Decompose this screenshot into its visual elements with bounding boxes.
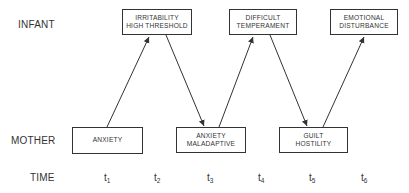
node-line2: HIGH THRESHOLD bbox=[126, 22, 188, 31]
node-line1: DIFFICULT bbox=[245, 14, 280, 23]
edge-anxiety-maladaptive-to-difficult bbox=[219, 37, 253, 127]
node-line1: IRRITABILITY bbox=[135, 14, 179, 23]
edge-guilt-to-emotional bbox=[323, 37, 364, 127]
edge-anxiety-to-irritability bbox=[107, 37, 149, 127]
node-anxiety: ANXIETY bbox=[72, 127, 143, 154]
node-line1: GUILT bbox=[304, 132, 324, 141]
time-tick-t5: t5 bbox=[309, 172, 315, 184]
time-tick-t3: t3 bbox=[207, 172, 213, 184]
time-tick-t6: t6 bbox=[361, 172, 367, 184]
node-line2: HOSTILITY bbox=[296, 140, 332, 149]
time-tick-t2: t2 bbox=[154, 172, 160, 184]
time-tick-t1: t1 bbox=[104, 172, 110, 184]
node-difficult-temperament: DIFFICULT TEMPERAMENT bbox=[229, 9, 297, 35]
node-line1: ANXIETY bbox=[196, 132, 226, 141]
node-irritability-high-threshold: IRRITABILITY HIGH THRESHOLD bbox=[122, 9, 192, 35]
node-line2: MALADAPTIVE bbox=[187, 140, 235, 149]
node-line1: ANXIETY bbox=[93, 136, 123, 145]
edge-difficult-to-guilt bbox=[270, 35, 307, 126]
edge-irritability-to-anxiety-maladaptive bbox=[166, 35, 204, 126]
node-emotional-disturbance: EMOTIONAL DISTURBANCE bbox=[330, 9, 398, 35]
node-guilt-hostility: GUILT HOSTILITY bbox=[279, 127, 348, 153]
node-line2: DISTURBANCE bbox=[339, 22, 388, 31]
time-tick-t4: t4 bbox=[258, 172, 264, 184]
node-anxiety-maladaptive: ANXIETY MALADAPTIVE bbox=[176, 127, 246, 153]
node-line2: TEMPERAMENT bbox=[237, 22, 290, 31]
node-line1: EMOTIONAL bbox=[344, 14, 385, 23]
